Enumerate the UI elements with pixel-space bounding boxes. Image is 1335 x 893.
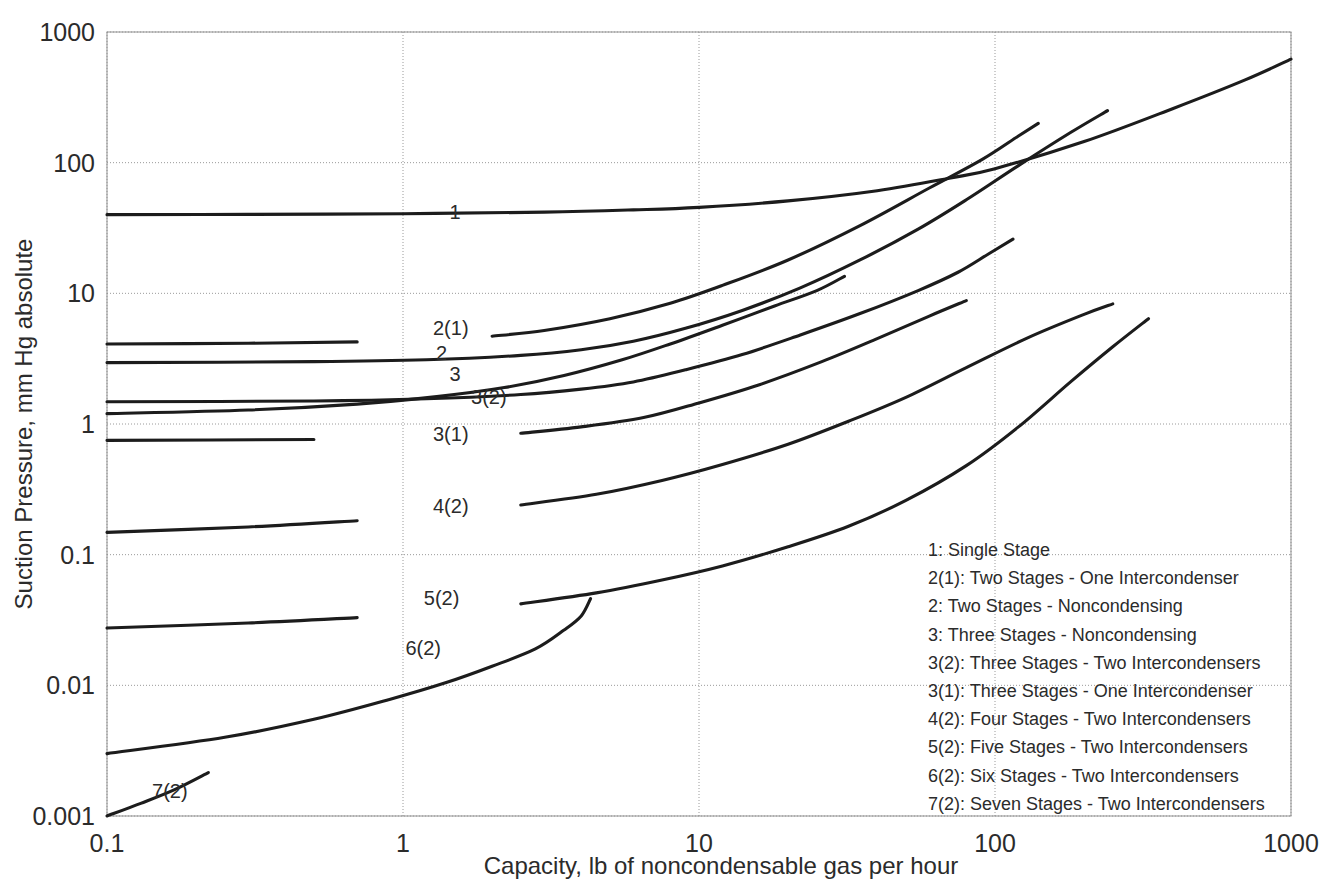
legend-entry: 3(2): Three Stages - Two Intercondensers bbox=[928, 653, 1261, 673]
curve-4(2) bbox=[107, 521, 357, 533]
curve-label-4(2): 4(2) bbox=[433, 495, 469, 517]
legend: 1: Single Stage2(1): Two Stages - One In… bbox=[928, 540, 1265, 814]
legend-entry: 4(2): Four Stages - Two Intercondensers bbox=[928, 709, 1251, 729]
curve-2(1) bbox=[107, 342, 357, 344]
curve-label-2(1): 2(1) bbox=[433, 317, 469, 339]
chart-canvas: 0.11101001000 0.0010.010.11101001000 12(… bbox=[0, 0, 1335, 893]
legend-entry: 3(1): Three Stages - One Intercondenser bbox=[928, 681, 1253, 701]
y-tick-label: 1 bbox=[81, 410, 95, 438]
curve-2 bbox=[107, 111, 1108, 363]
legend-entry: 6(2): Six Stages - Two Intercondensers bbox=[928, 766, 1239, 786]
y-axis-title: Suction Pressure, mm Hg absolute bbox=[10, 239, 37, 610]
legend-entry: 5(2): Five Stages - Two Intercondensers bbox=[928, 737, 1248, 757]
y-tick-label: 10 bbox=[67, 279, 95, 307]
x-tick-label: 1 bbox=[396, 829, 410, 857]
legend-entry: 2: Two Stages - Noncondensing bbox=[928, 596, 1183, 616]
curve-3(1) bbox=[521, 301, 967, 434]
legend-entry: 3: Three Stages - Noncondensing bbox=[928, 625, 1197, 645]
curve-label-6(2): 6(2) bbox=[405, 637, 441, 659]
curve-label-5(2): 5(2) bbox=[424, 587, 460, 609]
legend-entry: 1: Single Stage bbox=[928, 540, 1050, 560]
x-tick-label: 1000 bbox=[1263, 829, 1319, 857]
curve-label-7(2): 7(2) bbox=[152, 780, 188, 802]
legend-entry: 2(1): Two Stages - One Intercondenser bbox=[928, 568, 1239, 588]
legend-entry: 7(2): Seven Stages - Two Intercondensers bbox=[928, 794, 1265, 814]
curve-6(2) bbox=[107, 599, 591, 754]
y-tick-label: 0.01 bbox=[46, 671, 95, 699]
curve-4(2) bbox=[521, 304, 1113, 505]
curve-label-3(1): 3(1) bbox=[433, 423, 469, 445]
chart-figure: 0.11101001000 0.0010.010.11101001000 12(… bbox=[0, 0, 1335, 893]
curve-label-3: 3 bbox=[450, 363, 461, 385]
curve-label-2: 2 bbox=[436, 342, 447, 364]
y-tick-labels: 0.0010.010.11101001000 bbox=[32, 18, 95, 830]
y-tick-label: 0.001 bbox=[32, 802, 95, 830]
curve-label-1: 1 bbox=[450, 201, 461, 223]
y-tick-label: 0.1 bbox=[60, 541, 95, 569]
x-axis-title: Capacity, lb of noncondensable gas per h… bbox=[484, 852, 959, 879]
curve-label-3(2): 3(2) bbox=[471, 386, 507, 408]
curve-5(2) bbox=[107, 618, 357, 628]
curve-labels: 12(1)233(2)3(1)4(2)5(2)6(2)7(2) bbox=[152, 201, 507, 802]
y-tick-label: 100 bbox=[53, 149, 95, 177]
curve-3(1) bbox=[107, 440, 314, 441]
x-tick-label: 0.1 bbox=[90, 829, 125, 857]
y-tick-label: 1000 bbox=[39, 18, 95, 46]
x-tick-label: 100 bbox=[974, 829, 1016, 857]
